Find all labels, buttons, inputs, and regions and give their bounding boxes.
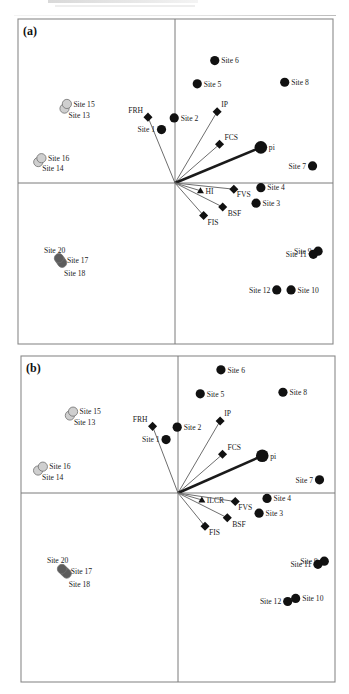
site-point-marker bbox=[291, 594, 300, 603]
large-circle-marker-icon bbox=[256, 450, 269, 463]
site-label: Site 17 bbox=[71, 567, 93, 576]
site-label: Site 14 bbox=[42, 473, 64, 482]
diamond-marker-icon bbox=[223, 513, 232, 522]
site-point-marker bbox=[161, 435, 170, 444]
site-point-marker bbox=[57, 564, 66, 573]
site-label: Site 10 bbox=[302, 594, 324, 603]
site-point-marker bbox=[315, 475, 324, 484]
site-label: Site 8 bbox=[289, 388, 307, 397]
diamond-marker-icon bbox=[148, 422, 157, 431]
site-point-marker bbox=[196, 389, 205, 398]
site-label: Site 15 bbox=[80, 407, 102, 416]
site-label: Site 18 bbox=[69, 580, 91, 589]
vector-line-fcs bbox=[178, 454, 223, 493]
site-point-marker bbox=[216, 365, 225, 374]
site-point-marker bbox=[38, 462, 47, 471]
site-label: Site 1 bbox=[142, 435, 160, 444]
site-label: Site 7 bbox=[295, 476, 313, 485]
vector-line-pi bbox=[178, 456, 262, 493]
vector-label: IP bbox=[224, 409, 231, 418]
site-label: Site 5 bbox=[207, 390, 225, 399]
site-point-marker bbox=[283, 597, 292, 606]
site-label: Site 11 bbox=[290, 560, 311, 569]
site-label: Site 4 bbox=[274, 494, 292, 503]
site-point-marker bbox=[262, 494, 271, 503]
site-point-marker bbox=[254, 509, 263, 518]
vector-label: BSF bbox=[232, 520, 246, 529]
site-label: Site 13 bbox=[74, 418, 96, 427]
site-point-marker bbox=[173, 423, 182, 432]
panel-label: (b) bbox=[26, 361, 41, 375]
site-point-marker bbox=[313, 560, 322, 569]
site-label: Site 6 bbox=[227, 366, 245, 375]
site-label: Site 2 bbox=[184, 423, 202, 432]
site-label: Site 16 bbox=[49, 462, 71, 471]
site-label: Site 20 bbox=[47, 556, 69, 565]
site-label: Site 12 bbox=[260, 597, 282, 606]
vector-label: pi bbox=[270, 452, 276, 461]
vector-label: FRH bbox=[133, 415, 148, 424]
vector-label: FIS bbox=[209, 528, 220, 537]
site-point-marker bbox=[68, 407, 77, 416]
vector-label: FVS bbox=[238, 503, 252, 512]
site-label: Site 3 bbox=[266, 509, 284, 518]
vector-label: FCS bbox=[228, 443, 242, 452]
biplot-panel-b: (b)FRHIPFCSpiILCRFVSBSFFISSite 1Site 2Si… bbox=[0, 0, 349, 694]
site-point-marker bbox=[278, 388, 287, 397]
